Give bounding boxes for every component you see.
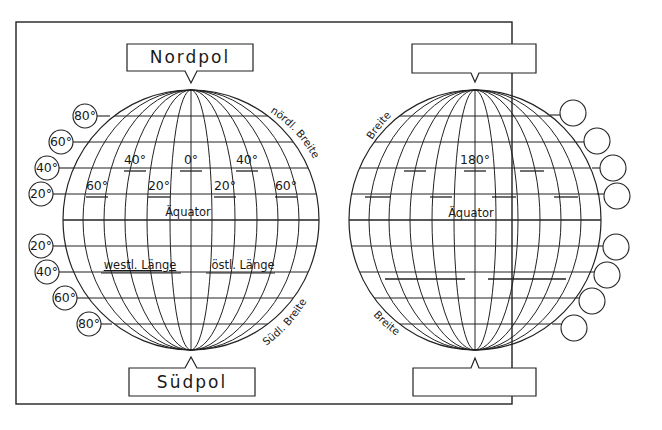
longitude-label-180: 180° — [460, 152, 490, 167]
longitude-label: 40° — [124, 152, 146, 167]
equator-label: Äquator — [448, 205, 494, 220]
latitude-answer-circle[interactable] — [579, 288, 605, 314]
longitude-answer-lines[interactable] — [365, 171, 578, 279]
latitude-answer-circle[interactable] — [561, 315, 587, 341]
latitude-answer-circle[interactable] — [594, 262, 620, 288]
longitude-label: 40° — [236, 152, 258, 167]
latitude-circle-label: 40° — [36, 264, 58, 279]
latitude-circle-label: 80° — [74, 108, 96, 123]
south-pole-label: Südpol — [157, 372, 227, 392]
latitude-circle-label: 80° — [78, 316, 100, 331]
latitude-circle-label: 20° — [30, 186, 52, 201]
north-pole-label-box[interactable]: Nordpol — [127, 44, 253, 83]
south-pole-label-box[interactable]: Südpol — [129, 357, 255, 396]
latitude-circle-label: 40° — [36, 160, 58, 175]
longitude-label: 20° — [148, 178, 170, 193]
east-longitude-label: östl. Länge — [211, 258, 274, 272]
latitude-answer-circle[interactable] — [603, 234, 629, 260]
latitude-answer-circle[interactable] — [584, 128, 610, 154]
latitude-answer-circle[interactable] — [600, 155, 626, 181]
north-pole-answer-box[interactable] — [412, 44, 536, 82]
longitude-label: 0° — [184, 152, 198, 167]
latitude-answer-circle[interactable] — [560, 100, 586, 126]
latitude-circle-label: 20° — [30, 238, 52, 253]
north-latitude-label: nördl. Breite — [269, 104, 322, 160]
south-latitude-label: Südl. Breite — [260, 296, 308, 348]
outer-frame — [16, 22, 512, 404]
latitude-circle-label: 60° — [54, 290, 76, 305]
worksheet-canvas: Nordpol Südpol 40° 0° 40° 60° 20° 20° 60… — [0, 0, 662, 430]
north-pole-label: Nordpol — [150, 47, 231, 67]
south-pole-answer-box[interactable] — [413, 358, 536, 396]
latitude-answer-circle[interactable] — [604, 183, 630, 209]
latitude-circle-label: 60° — [50, 134, 72, 149]
equator-label: Äquator — [165, 204, 211, 219]
longitude-label: 60° — [86, 178, 108, 193]
west-longitude-label: westl. Länge — [104, 258, 177, 272]
globe-worksheet: Nordpol Südpol 40° 0° 40° 60° 20° 20° 60… — [0, 0, 662, 430]
longitude-label: 20° — [214, 178, 236, 193]
longitude-label: 60° — [275, 178, 297, 193]
